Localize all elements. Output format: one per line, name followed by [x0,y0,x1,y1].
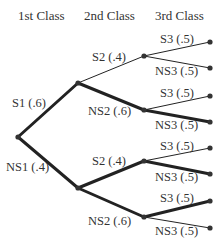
label-ns1-s2: S2 (.4) [92,154,126,169]
node-s1 [75,80,80,85]
node-s1-s2 [141,53,146,58]
node-s1-ns2 [141,107,146,112]
label-ns1-ns2-ns3: NS3 (.5) [155,224,198,239]
edge-ns1-ns2 [78,188,144,217]
leaf-8 [207,225,212,230]
leaf-2 [207,65,212,70]
leaf-5 [207,145,212,150]
leaf-7 [207,198,212,203]
label-ns1-s2-ns3: NS3 (.5) [155,170,198,185]
label-s1-s2-ns3: NS3 (.5) [155,64,198,79]
label-s1: S1 (.6) [12,96,46,111]
label-ns1-ns2: NS2 (.6) [88,214,131,229]
leaf-1 [207,39,212,44]
node-ns1-ns2 [141,214,146,219]
label-ns1: NS1 (.4) [6,160,49,175]
node-ns1-s2 [141,158,146,163]
leaf-6 [207,171,212,176]
leaf-3 [207,93,212,98]
header-1st-class: 1st Class [18,8,65,24]
node-root [15,134,20,139]
header-2nd-class: 2nd Class [84,8,135,24]
label-s1-s2-s3: S3 (.5) [160,32,194,47]
label-ns1-s2-s3: S3 (.5) [160,139,194,154]
label-ns1-ns2-s3: S3 (.5) [160,191,194,206]
header-3rd-class: 3rd Class [155,8,204,24]
leaf-4 [207,119,212,124]
label-s1-s2: S2 (.4) [92,50,126,65]
node-ns1 [75,185,80,190]
label-s1-ns2-s3: S3 (.5) [160,86,194,101]
label-s1-ns2-ns3: NS3 (.5) [155,118,198,133]
label-s1-ns2: NS2 (.6) [88,104,131,119]
